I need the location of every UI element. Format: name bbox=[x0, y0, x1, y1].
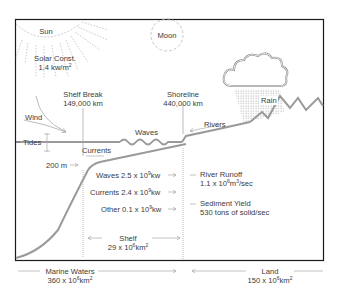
shelf-area-label: Shelf 29 x 106km2 bbox=[108, 234, 149, 252]
energy-waves: Waves 2.5 x 109kw bbox=[96, 171, 160, 180]
seafloor-profile bbox=[16, 144, 186, 258]
diagram-canvas bbox=[0, 0, 338, 306]
shoreline-label: Shoreline 440,000 km bbox=[163, 90, 203, 108]
land-area-label: Land 150 x 106km2 bbox=[248, 267, 293, 285]
energy-currents: Currents 2.4 x 109kw bbox=[90, 188, 160, 197]
sun-label: Sun bbox=[39, 27, 53, 36]
rain-area bbox=[234, 89, 284, 124]
marine-waters-label: Marine Waters 360 x 106km2 bbox=[45, 267, 94, 285]
waves-icon bbox=[120, 140, 182, 145]
sediment-yield-label: Sediment Yield 530 tons of solid/sec bbox=[200, 199, 269, 217]
currents-label: Currents bbox=[82, 146, 111, 155]
solar-constant-label: Solar Const. 1.4 kw/m2 bbox=[34, 54, 76, 72]
tides-label: Tides bbox=[23, 138, 41, 147]
moon-label: Moon bbox=[158, 31, 177, 40]
energy-arrows bbox=[168, 175, 196, 209]
shelf-break-label: Shelf Break 149,000 km bbox=[63, 90, 103, 108]
wind-label: Wind bbox=[25, 113, 42, 122]
rain-label: Rain bbox=[260, 96, 278, 105]
energy-other: Other 0.1 x 109kw bbox=[101, 205, 161, 214]
rivers-label: Rivers bbox=[204, 120, 226, 129]
river-runoff-label: River Runoff 1.1 x 106m3/sec bbox=[200, 170, 253, 188]
waves-label: Waves bbox=[135, 128, 158, 137]
depth-label: 200 m bbox=[46, 161, 67, 170]
